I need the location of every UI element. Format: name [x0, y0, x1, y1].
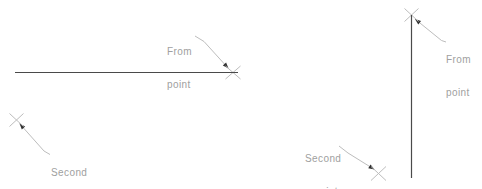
label-from-point-left: From point: [167, 24, 192, 112]
label-line: Second: [305, 153, 338, 164]
label-second-point-left: Second point: [51, 145, 86, 189]
from-point-leader: [195, 36, 229, 69]
label-from-point-right: From point: [446, 32, 471, 120]
second-point-marker: [371, 167, 386, 181]
second-point-marker: [10, 114, 24, 127]
label-line: Second: [51, 167, 86, 178]
horizontal-line-demo: [10, 36, 241, 155]
cad-ortho-diagram: From point Second point From point Secon…: [0, 0, 482, 189]
label-line: point: [167, 79, 192, 90]
second-point-leader: [339, 146, 375, 170]
label-line: point: [446, 87, 471, 98]
label-line: From: [167, 46, 192, 57]
vertical-line-demo: [339, 9, 446, 181]
label-line: From: [446, 54, 471, 65]
label-second-point-right: Second point: [305, 131, 338, 189]
second-point-leader: [20, 124, 51, 155]
label-line: point: [305, 186, 338, 189]
